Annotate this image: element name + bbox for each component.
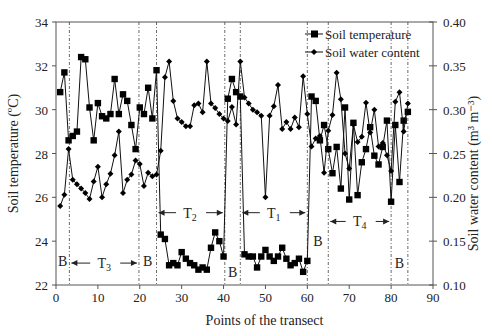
y-tick-label-left: 24: [35, 234, 49, 249]
water-content-marker: [288, 126, 294, 132]
temperature-marker: [329, 170, 335, 176]
arrow-right-icon: [217, 210, 223, 216]
x-tick-label: 40: [217, 290, 230, 305]
water-content-marker: [300, 73, 306, 79]
temperature-marker: [384, 117, 390, 123]
temperature-marker: [145, 85, 151, 91]
temperature-marker: [128, 122, 134, 128]
legend-square-icon: [311, 31, 318, 38]
temperature-marker: [283, 256, 289, 262]
y-axis-label-left: Soil temperature (ºC): [6, 93, 22, 213]
temperature-marker: [120, 91, 126, 97]
temperature-marker: [162, 236, 168, 242]
water-content-marker: [271, 103, 277, 109]
temperature-marker: [86, 104, 92, 110]
temperature-marker: [258, 253, 264, 259]
y-tick-label-right: 0.10: [443, 278, 466, 293]
water-content-marker: [95, 164, 101, 170]
water-content-marker: [187, 123, 193, 129]
temperature-marker: [74, 128, 80, 134]
water-content-marker: [246, 101, 252, 107]
x-tick-label: 80: [385, 290, 398, 305]
y-tick-label-left: 34: [35, 15, 49, 30]
temperature-marker: [346, 196, 352, 202]
temperature-marker: [111, 76, 117, 82]
dual-axis-line-chart: 0102030405060708090222426283032340.100.1…: [0, 0, 492, 336]
buffer-label: B: [228, 265, 237, 280]
temperature-marker: [296, 256, 302, 262]
temperature-marker: [262, 247, 268, 253]
temperature-marker: [204, 266, 210, 272]
temperature-marker: [57, 89, 63, 95]
temperature-marker: [216, 238, 222, 244]
arrow-left-icon: [330, 218, 336, 224]
temperature-marker: [338, 185, 344, 191]
x-tick-label: 20: [133, 290, 146, 305]
water-content-marker: [107, 171, 113, 177]
water-content-line: [60, 61, 408, 206]
temperature-marker: [225, 96, 231, 102]
segment-label: T2: [183, 206, 197, 223]
y-tick-label-right: 0.15: [443, 234, 466, 249]
water-content-marker: [304, 111, 310, 117]
x-tick-label: 30: [175, 290, 188, 305]
y-tick-label-right: 0.20: [443, 190, 466, 205]
temperature-marker: [82, 56, 88, 62]
temperature-marker: [208, 245, 214, 251]
water-content-marker: [283, 119, 289, 125]
y-tick-label-left: 28: [35, 147, 48, 162]
water-content-marker: [99, 194, 105, 200]
water-content-marker: [87, 196, 93, 202]
y-tick-label-right: 0.35: [443, 59, 466, 74]
water-content-marker: [296, 124, 302, 130]
y-tick-label-left: 30: [35, 103, 48, 118]
temperature-marker: [116, 111, 122, 117]
temperature-marker: [371, 152, 377, 158]
temperature-marker: [342, 104, 348, 110]
water-content-marker: [267, 113, 273, 119]
temperature-marker: [178, 249, 184, 255]
segment-label: T4: [353, 214, 367, 231]
arrow-right-icon: [383, 218, 389, 224]
x-tick-label: 10: [91, 290, 104, 305]
x-axis-label: Points of the transect: [206, 313, 324, 328]
legend-diamond-icon: [311, 49, 317, 55]
water-content-marker: [103, 181, 109, 187]
water-content-marker: [120, 190, 126, 196]
arrow-left-icon: [71, 260, 77, 266]
temperature-marker: [61, 69, 67, 75]
water-content-marker: [262, 194, 268, 200]
y-axis-label-right: Soil water content (m³ m⁻³): [466, 95, 482, 251]
temperature-marker: [304, 258, 310, 264]
water-content-marker: [170, 98, 176, 104]
temperature-marker: [250, 253, 256, 259]
segment-label: T3: [97, 256, 111, 273]
water-content-marker: [91, 179, 97, 185]
temperature-marker: [95, 100, 101, 106]
x-tick-label: 60: [301, 290, 314, 305]
temperature-marker: [321, 122, 327, 128]
arrow-left-icon: [159, 210, 165, 216]
water-content-marker: [229, 104, 235, 110]
y-tick-label-right: 0.25: [443, 147, 466, 162]
x-tick-label: 70: [343, 290, 356, 305]
water-content-marker: [371, 107, 377, 113]
segment-label: T1: [267, 206, 281, 223]
x-tick-label: 50: [259, 290, 272, 305]
water-content-marker: [329, 112, 335, 118]
temperature-marker: [254, 264, 260, 270]
temperature-marker: [107, 111, 113, 117]
arrow-right-icon: [299, 210, 305, 216]
water-content-marker: [57, 203, 63, 209]
temperature-marker: [153, 67, 159, 73]
y-tick-label-left: 32: [35, 59, 48, 74]
temperature-marker: [359, 159, 365, 165]
temperature-marker: [141, 111, 147, 117]
buffer-label: B: [395, 256, 404, 271]
temperature-marker: [137, 104, 143, 110]
water-content-marker: [233, 122, 239, 128]
temperature-marker: [363, 146, 369, 152]
water-content-marker: [325, 128, 331, 134]
water-content-marker: [401, 129, 407, 135]
buffer-label: B: [143, 254, 152, 269]
